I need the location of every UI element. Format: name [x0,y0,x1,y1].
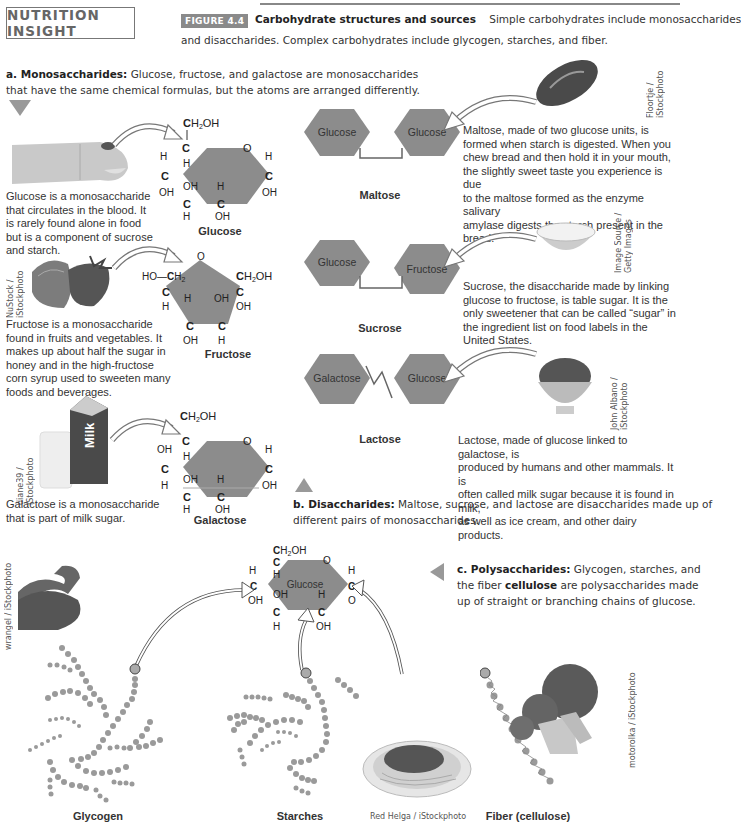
nutrition-insight-box: NUTRITION INSIGHT [6,7,135,39]
desc-line: found in fruits and vegetables. It [6,332,171,346]
section-a-text-2: that have the same chemical formulas, bu… [6,84,420,96]
svg-text:C: C [182,142,190,154]
glucose-label: Glucose [170,225,270,237]
sucrose-label: Sucrose [330,322,430,334]
box-title: NUTRITION INSIGHT [7,7,134,39]
section-a-text: Glucose, fructose, and galactose are mon… [131,68,419,80]
desc-line: Sucrose, the disaccharide made by linkin… [463,280,678,294]
strawberries-photo [28,252,116,310]
svg-text:H: H [160,151,167,162]
credit-line: iStockphoto [656,71,665,118]
credit-line: iStockphoto [620,383,629,430]
svg-text:C: C [265,463,273,475]
section-c-text-4: up of straight or branching chains of gl… [457,595,696,607]
svg-text:C: C [218,320,226,332]
glucose-ring-structure: CH2OH C O H C OH H OH H H C OH C C H OH [155,112,280,222]
svg-text:OH: OH [157,444,172,455]
section-b-title: b. Disaccharides: [293,498,395,510]
section-c-text-2: the fiber [457,579,505,591]
flexed-arm-photo [18,560,108,630]
svg-text:C: C [217,198,225,210]
svg-text:C: C [265,170,273,182]
credit-line: iStockphoto [16,271,25,318]
svg-text:OH: OH [159,187,174,198]
desc-line: to the maltose formed as the enzyme sali… [463,192,678,219]
desc-line: Galactose is a monosaccharide [6,498,171,512]
svg-text:C: C [183,198,191,210]
desc-line: makes up about half the sugar in [6,345,171,359]
desc-line: honey and in the high-fructose [6,359,171,373]
figure-caption-line1: Carbohydrate structures and sources Simp… [255,13,741,25]
svg-text:CH2OH: CH2OH [236,270,272,283]
desc-line: is rarely found alone in food [6,217,156,231]
starches-label: Starches [250,810,350,822]
credit-line: John Albano / [610,377,619,430]
credit-line: Floortje / [646,83,655,118]
credit-line: Getty Images [624,219,633,273]
triangle-up-icon [295,478,313,492]
photo-credit: Floortje /iStockphoto [646,58,666,118]
caption-text: Simple carbohydrates include monosacchar… [489,13,741,25]
svg-text:H: H [161,480,168,491]
sugar-bowl-photo [535,220,597,265]
galactose-ring-structure: CH2OH C O OH C H H OH H H C OH C C H OH [155,405,280,515]
svg-text:H: H [183,158,190,169]
fiber-cellulose-label: Fiber (cellulose) [468,810,588,822]
svg-text:H: H [183,211,190,222]
svg-text:OH: OH [183,335,198,346]
desc-line: the ingredient list on food labels in th… [463,321,678,335]
curved-arrow-left-icon [440,225,540,270]
hexagon-label: Glucose [318,126,357,138]
photo-credit: NuStock /iStockphoto [6,258,26,318]
broccoli-photo [500,662,610,762]
hexagon-label: Galactose [313,372,360,384]
figure-title: Carbohydrate structures and sources [255,13,476,25]
svg-text:H: H [265,151,272,162]
desc-line: that circulates in the blood. It [6,204,156,218]
section-b-text: Maltose, sucrose, and lactose are disacc… [398,498,712,510]
photo-credit: diane39 /iStockphoto [16,435,36,505]
svg-text:OH: OH [183,181,198,192]
section-c-text: Glycogen, starches, and [574,563,701,575]
svg-text:H: H [265,444,272,455]
hexagon-label: Glucose [318,256,357,268]
figure-tag: FIGURE 4.4 [181,14,248,28]
desc-line: the slightly sweet taste you experience … [463,165,678,192]
section-c-text-3: are polysaccharides made [557,579,698,591]
desc-line: that is part of milk sugar. [6,512,171,526]
galactose-description: Galactose is a monosaccharide that is pa… [6,498,171,525]
sucrose-description: Sucrose, the disaccharide made by linkin… [463,280,678,348]
desc-line: Fructose is a monosaccharide [6,318,171,332]
desc-line: formed when starch is digested. When you [463,138,678,152]
svg-text:H: H [218,335,225,346]
svg-text:C: C [273,557,280,568]
svg-text:OH: OH [236,301,251,312]
svg-text:C: C [217,491,225,503]
section-a-title: a. Monosaccharides: [6,68,127,80]
photo-credit: Red Helga / iStockphoto [370,812,466,821]
lactose-label: Lactose [330,433,430,445]
bread-roll-photo [532,58,602,108]
svg-text:OH: OH [183,474,198,485]
spaghetti-plate-photo [362,733,472,798]
svg-text:O: O [243,142,252,154]
svg-text:C: C [183,491,191,503]
photo-credit: Image Source /Getty Images [614,208,634,273]
galactose-label: Galactose [170,514,270,526]
svg-text:C: C [182,435,190,447]
svg-text:OH: OH [214,293,229,304]
credit-line: NuStock / [6,280,15,318]
cellulose-term: cellulose [505,579,557,591]
svg-text:OH: OH [262,480,277,491]
desc-line: produced by humans and other mammals. It… [458,461,680,488]
top-rule [260,3,680,5]
section-c-heading: c. Polysaccharides: Glycogen, starches, … [457,561,701,609]
svg-text:C: C [161,170,169,182]
svg-text:H: H [162,301,169,312]
glycogen-chain-diagram [20,640,190,810]
desc-line: Glucose is a monosaccharide [6,190,156,204]
svg-text:H: H [184,293,191,304]
section-c-title: c. Polysaccharides: [457,563,570,575]
desc-line: glucose to fructose, is table sugar. It … [463,294,678,308]
svg-text:C: C [161,463,169,475]
